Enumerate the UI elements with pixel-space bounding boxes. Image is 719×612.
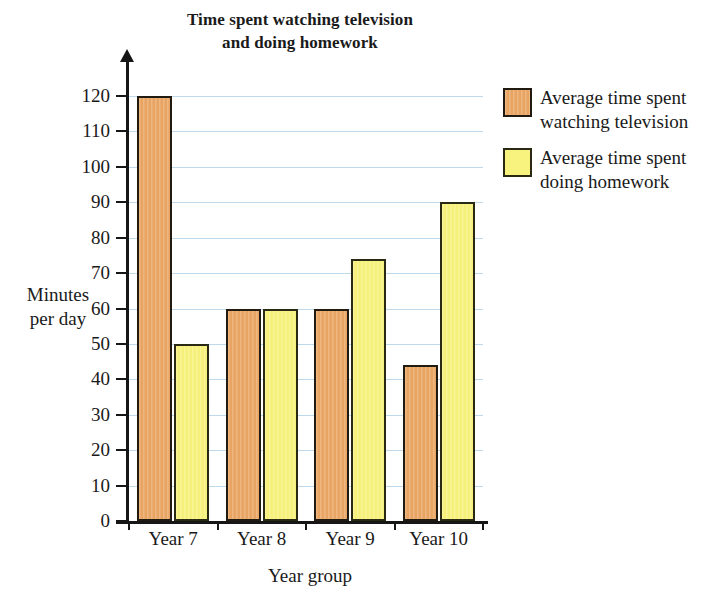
legend-label-television-line-1: Average time spent (540, 86, 688, 110)
x-axis-tick-label: Year 7 (127, 528, 219, 550)
y-axis-tick (116, 308, 129, 310)
plot-area (129, 96, 483, 521)
bar (137, 96, 172, 521)
y-axis-tick (116, 485, 129, 487)
gridline (129, 96, 483, 97)
legend-swatch-television-icon (503, 88, 532, 117)
bar (440, 202, 475, 521)
chart-legend: Average time spent watching television A… (503, 86, 715, 206)
y-axis-tick (116, 166, 129, 168)
legend-label-homework-line-1: Average time spent (540, 146, 686, 170)
y-axis-tick-label: 110 (64, 121, 110, 140)
legend-swatch-homework-icon (503, 148, 532, 177)
x-axis-title: Year group (190, 565, 430, 587)
y-axis-tick-label: 80 (64, 228, 110, 247)
y-axis-title-line-2: per day (8, 307, 108, 331)
x-axis-tick-label: Year 8 (216, 528, 308, 550)
gridline (129, 238, 483, 239)
x-axis-tick-label: Year 10 (393, 528, 485, 550)
x-axis-line (116, 521, 488, 524)
y-axis-tick (116, 343, 129, 345)
y-axis-tick (116, 272, 129, 274)
y-axis-tick-label: 70 (64, 263, 110, 282)
y-axis-tick (116, 237, 129, 239)
y-axis-tick-label: 100 (64, 157, 110, 176)
gridline (129, 167, 483, 168)
chart-title-line-1: Time spent watching television (120, 8, 480, 31)
y-axis-tick (116, 378, 129, 380)
y-axis-tick-label: 20 (64, 440, 110, 459)
y-axis-tick-label: 90 (64, 192, 110, 211)
y-axis-tick-label: 30 (64, 405, 110, 424)
y-axis-tick-label: 50 (64, 334, 110, 353)
y-axis-tick (116, 449, 129, 451)
bar (226, 309, 261, 522)
gridline (129, 273, 483, 274)
x-axis-tick-label: Year 9 (304, 528, 396, 550)
y-axis-tick (116, 414, 129, 416)
y-axis-tick-label: 120 (64, 86, 110, 105)
bar (403, 365, 438, 521)
bar (174, 344, 209, 521)
y-axis-tick-label: 40 (64, 369, 110, 388)
legend-label-homework-line-2: doing homework (540, 170, 686, 194)
gridline (129, 309, 483, 310)
chart-title: Time spent watching television and doing… (120, 8, 480, 54)
y-axis-tick-label: 0 (64, 511, 110, 530)
legend-label-television: Average time spent watching television (540, 86, 688, 134)
y-axis-arrow-icon (120, 49, 134, 62)
gridline (129, 131, 483, 132)
y-axis-title-line-1: Minutes (8, 283, 108, 307)
y-axis-title: Minutes per day (8, 283, 108, 331)
chart-title-line-2: and doing homework (120, 31, 480, 54)
legend-item-television: Average time spent watching television (503, 86, 715, 134)
bar (263, 309, 298, 522)
y-axis-tick-label: 10 (64, 476, 110, 495)
gridline (129, 202, 483, 203)
legend-item-homework: Average time spent doing homework (503, 146, 715, 194)
y-axis-tick (116, 95, 129, 97)
y-axis-tick (116, 130, 129, 132)
legend-label-television-line-2: watching television (540, 110, 688, 134)
bar (314, 309, 349, 522)
y-axis-tick (116, 201, 129, 203)
bar (351, 259, 386, 521)
legend-label-homework: Average time spent doing homework (540, 146, 686, 194)
